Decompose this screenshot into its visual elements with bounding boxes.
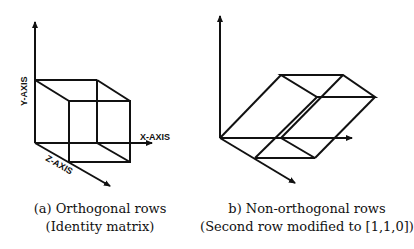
x-axis-label: X-AXIS xyxy=(140,132,170,142)
right-caption-line1: b) Non-orthogonal rows xyxy=(200,201,414,216)
z-axis-arrow xyxy=(35,143,110,186)
non-orthogonal-box-figure xyxy=(220,16,375,183)
right-caption-line2: (Second row modified to [1,1,0]) xyxy=(200,219,414,234)
left-caption: (a) Orthogonal rows (Identity matrix) xyxy=(0,201,200,234)
z-axis-arrow xyxy=(220,138,295,183)
left-caption-line2: (Identity matrix) xyxy=(0,219,200,234)
left-caption-line1: (a) Orthogonal rows xyxy=(0,201,200,216)
right-caption: b) Non-orthogonal rows (Second row modif… xyxy=(200,201,414,234)
y-axis-label: Y-AXIS xyxy=(19,76,29,106)
